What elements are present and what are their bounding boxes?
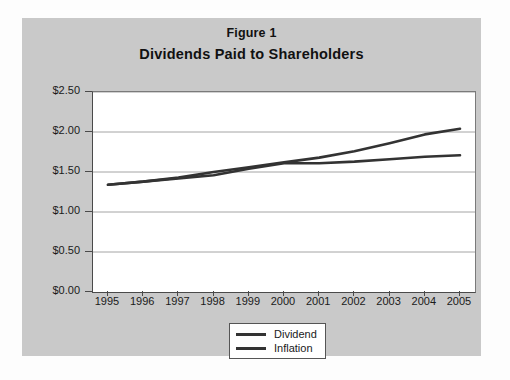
y-tick-label: $1.50 [30, 164, 80, 176]
series-line-inflation [108, 155, 460, 185]
x-tick-label: 1996 [122, 295, 162, 307]
y-tick-mark [85, 171, 92, 172]
y-tick-mark [85, 211, 92, 212]
gridlines [93, 92, 475, 292]
legend-label: Inflation [274, 342, 313, 354]
legend-label: Dividend [274, 328, 317, 340]
x-tick-mark [389, 291, 390, 296]
legend-line-icon [236, 347, 266, 350]
x-tick-mark [353, 291, 354, 296]
x-tick-mark [424, 291, 425, 296]
x-axis: 1995199619971998199920002001200220032004… [92, 295, 474, 313]
x-tick-label: 2000 [263, 295, 303, 307]
y-tick-mark [85, 251, 92, 252]
x-tick-mark [213, 291, 214, 296]
x-tick-mark [283, 291, 284, 296]
x-tick-mark [142, 291, 143, 296]
y-tick-label: $1.00 [30, 204, 80, 216]
series-lines [108, 129, 460, 185]
x-tick-label: 2001 [298, 295, 338, 307]
x-tick-label: 2003 [369, 295, 409, 307]
y-axis: $0.00$0.50$1.00$1.50$2.00$2.50 [22, 18, 92, 356]
y-tick-label: $0.00 [30, 284, 80, 296]
figure-container: Figure 1 Dividends Paid to Shareholders … [0, 0, 510, 380]
x-tick-label: 1997 [157, 295, 197, 307]
plot-area [92, 91, 476, 293]
x-tick-mark [459, 291, 460, 296]
x-tick-mark [107, 291, 108, 296]
x-tick-mark [248, 291, 249, 296]
y-tick-label: $2.00 [30, 124, 80, 136]
chart-legend: DividendInflation [229, 323, 326, 359]
x-tick-label: 1998 [193, 295, 233, 307]
y-tick-mark [85, 91, 92, 92]
y-tick-label: $0.50 [30, 244, 80, 256]
x-tick-label: 2005 [439, 295, 479, 307]
legend-line-icon [236, 333, 266, 336]
legend-item: Dividend [236, 327, 317, 341]
y-tick-label: $2.50 [30, 84, 80, 96]
x-tick-mark [318, 291, 319, 296]
plot-svg [93, 92, 475, 292]
x-tick-label: 2002 [333, 295, 373, 307]
chart-panel: Figure 1 Dividends Paid to Shareholders … [22, 18, 481, 356]
x-tick-label: 1995 [87, 295, 127, 307]
y-tick-mark [85, 291, 92, 292]
y-tick-mark [85, 131, 92, 132]
x-tick-label: 1999 [228, 295, 268, 307]
x-tick-mark [177, 291, 178, 296]
legend-item: Inflation [236, 341, 317, 355]
x-tick-label: 2004 [404, 295, 444, 307]
